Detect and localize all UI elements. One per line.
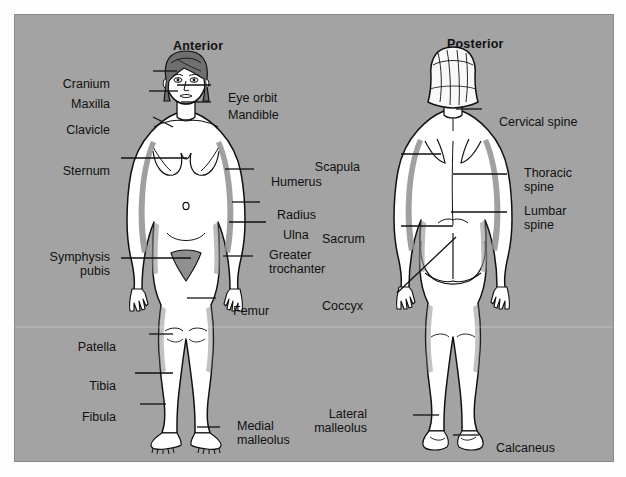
heading-posterior: Posterior: [447, 37, 504, 51]
label-sternum-text: Sternum: [63, 164, 110, 178]
posterior-figure: [394, 47, 512, 450]
label-clavicle: Clavicle: [15, 124, 110, 138]
label-cranium: Cranium: [15, 78, 110, 92]
label-thoracic-spine-text: Thoracic: [524, 166, 572, 180]
label-eye-orbit-text: Eye orbit: [228, 91, 277, 105]
label-mandible-text: Mandible: [228, 108, 279, 122]
label-tibia-text: Tibia: [89, 379, 116, 393]
label-lateral-malleolus: Lateral malleolus: [297, 408, 367, 435]
label-clavicle-text: Clavicle: [66, 123, 110, 137]
label-sternum: Sternum: [15, 165, 110, 179]
label-femur-text: Femur: [233, 304, 269, 318]
label-patella: Patella: [15, 341, 116, 355]
label-maxilla-text: Maxilla: [71, 97, 110, 111]
label-coccyx-text: Coccyx: [322, 299, 363, 313]
label-calcaneus: Calcaneus: [496, 442, 555, 456]
label-radius: Radius: [277, 209, 316, 223]
label-symphysis-pubis-text: Symphysis: [50, 250, 110, 264]
label-tibia: Tibia: [15, 380, 116, 394]
label-lumbar-spine-text2: spine: [524, 219, 566, 233]
label-calcaneus-text: Calcaneus: [496, 441, 555, 455]
anatomy-figure: Anterior Posterior Cranium Eye orbit Max…: [0, 0, 626, 477]
label-lumbar-spine-text: Lumbar: [524, 204, 566, 218]
label-patella-text: Patella: [78, 340, 116, 354]
label-fibula-text: Fibula: [82, 410, 116, 424]
label-cervical-spine-text: Cervical spine: [499, 115, 578, 129]
label-lateral-malleolus-text: Lateral: [329, 407, 367, 421]
label-sacrum: Sacrum: [300, 233, 365, 247]
label-femur: Femur: [233, 305, 269, 319]
label-greater-trochanter-text: Greater: [269, 248, 311, 262]
label-scapula: Scapula: [295, 161, 360, 175]
label-radius-text: Radius: [277, 208, 316, 222]
label-fibula: Fibula: [15, 411, 116, 425]
label-cranium-text: Cranium: [63, 77, 110, 91]
label-symphysis-pubis-text2: pubis: [15, 265, 110, 279]
label-medial-malleolus-text2: malleolus: [237, 434, 290, 448]
label-thoracic-spine: Thoracic spine: [524, 167, 572, 194]
label-lumbar-spine: Lumbar spine: [524, 205, 566, 232]
label-scapula-text: Scapula: [315, 160, 360, 174]
label-humerus-text: Humerus: [271, 175, 322, 189]
label-coccyx: Coccyx: [298, 300, 363, 314]
label-greater-trochanter: Greater trochanter: [269, 249, 325, 276]
diagram-panel: Anterior Posterior Cranium Eye orbit Max…: [14, 14, 614, 462]
label-sacrum-text: Sacrum: [322, 232, 365, 246]
label-medial-malleolus-text: Medial: [237, 419, 274, 433]
label-medial-malleolus: Medial malleolus: [237, 420, 290, 447]
label-maxilla: Maxilla: [15, 98, 110, 112]
heading-anterior: Anterior: [173, 39, 223, 53]
label-thoracic-spine-text2: spine: [524, 181, 572, 195]
label-humerus: Humerus: [271, 176, 322, 190]
label-greater-trochanter-text2: trochanter: [269, 263, 325, 277]
label-cervical-spine: Cervical spine: [499, 116, 578, 130]
label-symphysis-pubis: Symphysis pubis: [15, 251, 110, 278]
label-eye-orbit: Eye orbit: [228, 92, 277, 106]
label-lateral-malleolus-text2: malleolus: [297, 422, 367, 436]
label-mandible: Mandible: [228, 109, 279, 123]
